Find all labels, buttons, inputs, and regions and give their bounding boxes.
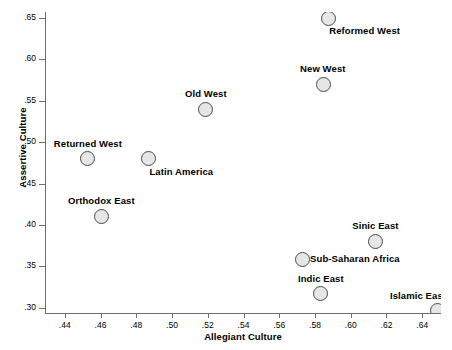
- x-tick-label: .48: [124, 320, 148, 330]
- y-tick-label: .30: [24, 302, 36, 312]
- y-tick: .45: [39, 184, 45, 185]
- x-tick-label: .46: [89, 320, 113, 330]
- x-tick: .62: [386, 313, 387, 318]
- data-point-marker[interactable]: [94, 209, 109, 224]
- x-tick: .54: [244, 313, 245, 318]
- scatter-plot: Assertive Culture Allegiant Culture .65.…: [0, 0, 452, 350]
- y-axis-title: Assertive Culture: [17, 88, 28, 208]
- data-point-marker[interactable]: [313, 286, 328, 301]
- y-tick: .50: [39, 142, 45, 143]
- y-tick: .60: [39, 59, 45, 60]
- x-tick: .52: [208, 313, 209, 318]
- x-tick: .56: [279, 313, 280, 318]
- data-point-label: Latin America: [149, 166, 213, 177]
- y-tick-label: .35: [24, 260, 36, 270]
- x-tick: .44: [65, 313, 66, 318]
- x-tick: .48: [136, 313, 137, 318]
- plot-area: Reformed WestNew WestOld WestReturned We…: [46, 12, 441, 313]
- x-tick: .60: [351, 313, 352, 318]
- data-point-marker[interactable]: [141, 151, 156, 166]
- data-point-label: Orthodox East: [68, 195, 135, 206]
- data-point-label: New West: [300, 63, 346, 74]
- data-point-marker[interactable]: [368, 234, 383, 249]
- y-tick: .55: [39, 101, 45, 102]
- data-point-label: Reformed West: [329, 25, 400, 36]
- data-point-label: Sinic East: [352, 220, 398, 231]
- y-tick-label: .40: [24, 219, 36, 229]
- x-tick: .50: [172, 313, 173, 318]
- x-tick-label: .52: [196, 320, 220, 330]
- y-tick-label: .55: [24, 95, 36, 105]
- data-point-marker[interactable]: [80, 151, 95, 166]
- data-point-marker[interactable]: [295, 252, 310, 267]
- x-tick-label: .54: [232, 320, 256, 330]
- x-tick: .46: [101, 313, 102, 318]
- y-tick: .40: [39, 225, 45, 226]
- data-point-marker[interactable]: [198, 102, 213, 117]
- y-tick-label: .65: [24, 12, 36, 22]
- data-point-label: Sub-Saharan Africa: [310, 253, 400, 264]
- data-point-label: Indic East: [298, 273, 344, 284]
- y-tick-label: .60: [24, 53, 36, 63]
- data-point-label: Islamic East: [390, 290, 441, 301]
- x-tick-label: .62: [374, 320, 398, 330]
- x-tick-label: .50: [160, 320, 184, 330]
- x-tick: .58: [315, 313, 316, 318]
- y-tick-label: .50: [24, 136, 36, 146]
- x-tick-label: .60: [339, 320, 363, 330]
- x-tick-label: .44: [53, 320, 77, 330]
- data-point-label: Old West: [185, 88, 227, 99]
- x-tick-label: .56: [267, 320, 291, 330]
- y-tick: .30: [39, 308, 45, 309]
- x-tick-label: .58: [303, 320, 327, 330]
- x-axis-title: Allegiant Culture: [45, 331, 441, 342]
- x-tick-label: .64: [410, 320, 434, 330]
- data-point-marker[interactable]: [316, 77, 331, 92]
- data-point-marker[interactable]: [321, 12, 336, 26]
- y-tick: .65: [39, 18, 45, 19]
- y-tick: .35: [39, 266, 45, 267]
- data-point-marker[interactable]: [430, 303, 441, 313]
- y-tick-label: .45: [24, 178, 36, 188]
- x-tick: .64: [422, 313, 423, 318]
- data-point-label: Returned West: [54, 138, 122, 149]
